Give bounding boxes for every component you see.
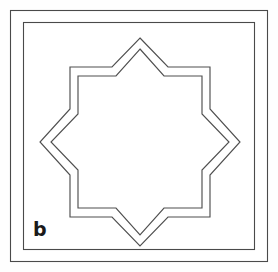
panel-label-b: b [33, 220, 47, 239]
panel-interior-fill [10, 10, 268, 262]
figure-panel: b [0, 0, 278, 272]
